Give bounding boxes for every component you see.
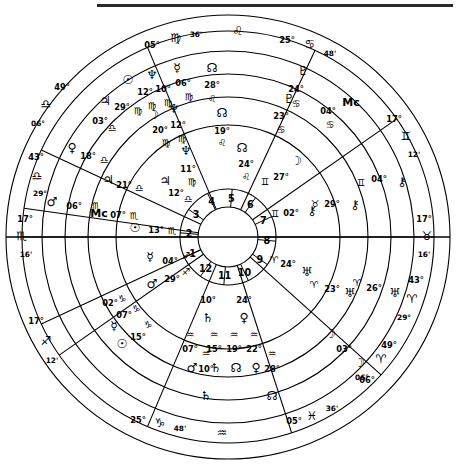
inner-ring-sign-libra-8: ♎ <box>184 193 193 204</box>
mid-ring-degree-venus-6: 22° <box>246 344 262 354</box>
outer-ring-planet-pluto-0: ♇ <box>297 63 308 78</box>
outer-degree-7: 05° <box>286 416 302 426</box>
house-cusp-lines <box>6 47 450 433</box>
mid-ring-degree-mars-9: 07° <box>182 344 198 354</box>
inner-ring-degree-venus-9: 24° <box>236 295 252 305</box>
outer-minute-4: 16' <box>418 250 431 259</box>
outer-sign-scorpio-11: ♏ <box>17 229 28 243</box>
outer-degree-4: 17° <box>416 214 432 224</box>
outer-ring-degree-mars-7: 06° <box>66 201 82 211</box>
mid-ring-planet-chiron-3: ⚷ <box>350 197 359 212</box>
inner-ring-degree-mercury-5: 04° <box>162 256 178 266</box>
house-number-6: 6 <box>247 199 254 210</box>
outer-ring-planet-uranus-3: ♅ <box>389 285 400 300</box>
outer-sign-cancer-2: ♋ <box>305 37 316 51</box>
outer-minute-10: 12' <box>46 356 59 365</box>
outer-ring-planet-chiron-2: ⚷ <box>397 174 406 189</box>
inner-ring-planet-uranus-4: ♅ <box>301 264 312 279</box>
outer-minute-9: 48' <box>174 424 187 433</box>
inner-ring-planet-jupiter-8: ♃ <box>159 173 170 188</box>
inner-ring-planet-venus-9: ♀ <box>239 310 248 325</box>
outer-degree-10: 17° <box>28 316 44 326</box>
inner-ring-degree-saturn-10: 10° <box>200 295 216 305</box>
inner-ring-degree-uranus-4: 24° <box>280 259 296 269</box>
outer-minute-11: 16' <box>20 250 33 259</box>
outer-degree-3: 17° <box>386 114 402 124</box>
mid-ring-planet-moon-5: ☽ <box>324 326 335 341</box>
outer-minute-3: 12' <box>408 150 421 159</box>
outer-sign-libra-13: ♎ <box>41 97 52 111</box>
mid-ring-sign-aries-4: ♈ <box>310 279 319 290</box>
mid-ring-planet-mercury-11: ☿ <box>110 318 118 333</box>
mid-ring-sign-aquarius-8: ♒ <box>210 329 219 340</box>
mid-ring-sign-aquarius-7: ♒ <box>230 329 239 340</box>
inner-ring-planet-neptune-1: ♆ <box>180 143 191 158</box>
mid-ring-sign-gemini-2: ♊ <box>261 176 270 187</box>
mid-ring-sign-capricorn-11: ♑ <box>132 303 141 314</box>
outer-ring-degree-mc-1: 04° <box>320 106 336 116</box>
outer-degree-11: 17° <box>17 214 33 224</box>
mid-ring-sign-libra-14: ♎ <box>135 182 144 193</box>
outer-ring-planet-jupiter-9: ♃ <box>99 93 110 108</box>
house-number-9: 9 <box>257 254 264 265</box>
outer-ring-degree-sun-10: 12° <box>137 87 153 97</box>
mid-ring-degree-uranus-4: 23° <box>324 284 340 294</box>
outer-ring-degree-uranus-3: 26° <box>366 283 382 293</box>
inner-ring-planet-node-2: ☊ <box>236 140 247 155</box>
mid-ring-degree-jupiter-14: 21° <box>116 180 132 190</box>
astrology-chart-wheel[interactable]: 123456789101112 05°♍36'♌25°♋48'17°♊12'17… <box>0 0 457 469</box>
mid-ring-planet-moon-2: ☽ <box>290 153 301 168</box>
house-number-8: 8 <box>264 235 271 246</box>
mid-ring-degree-node-7: 19° <box>226 344 242 354</box>
inner-ring-degree-node-0: 19° <box>214 126 230 136</box>
mid-ring-degree-saturn-8: 15° <box>206 344 222 354</box>
outer-degree-6: 49° <box>381 340 397 350</box>
inner-ring-sign-aries-4: ♈ <box>270 254 279 265</box>
outer-ring-degree-neptune-11: 10° <box>155 84 171 94</box>
mid-ring-planet-node-7: ☊ <box>230 360 241 375</box>
mid-ring-planet-saturn-8: ♄ <box>210 360 221 375</box>
inner-ring-degree-node-2: 24° <box>238 159 254 169</box>
inner-ring-sign-scorpio-7: ♏ <box>168 225 177 236</box>
mid-ring-degree-moon-16: 20° <box>152 125 168 135</box>
outer-ring-sign-cancer-1: ♋ <box>326 119 335 130</box>
mid-ring-degree-node-0: 28° <box>204 80 220 90</box>
mid-ring-planet-venus-6: ♀ <box>251 360 260 375</box>
outer-degree-12: 43° <box>28 152 44 162</box>
outer-ring-planet-mc-1: Mc <box>342 96 359 109</box>
inner-ring-degree-chiron-3: 02° <box>283 208 299 218</box>
inner-ring-sign-sagittarius-5: ♐ <box>182 250 191 261</box>
outer-degree-0: 05° <box>144 40 160 50</box>
house-number-4: 4 <box>208 196 215 207</box>
outer-ring-sign-libra-8: ♎ <box>100 154 109 165</box>
outer-ring-degree-mercury-12: 06° <box>175 78 191 88</box>
outer-ring-planet-venus-8: ♀ <box>67 140 76 155</box>
outer-ring-planet-sun-10: ☉ <box>122 72 133 87</box>
mid-ring-planet-node-0: ☊ <box>206 60 217 75</box>
chart-labels: 05°♍36'♌25°♋48'17°♊12'17°♉16'43°♈29°49°♈… <box>17 24 433 440</box>
mid-ring-sign-cancer-1: ♋ <box>277 124 286 135</box>
mid-ring-planet-pluto-1: ♇ <box>283 91 294 106</box>
outer-degree-13: 49° <box>54 82 70 92</box>
inner-ring-planet-mars-6: ♂ <box>146 276 157 291</box>
inner-ring-planet-saturn-10: ♄ <box>202 310 213 325</box>
mid-ring-planet-uranus-4: ♅ <box>344 285 355 300</box>
outer-ring-degree-chiron-2: 04° <box>371 174 387 184</box>
outer-ring-planet-neptune-11: ♆ <box>146 67 157 82</box>
house-number-5: 5 <box>228 193 235 204</box>
inner-ring-degree-mars-6: 29° <box>164 274 180 284</box>
mid-ring-sign-capricorn-12: ♑ <box>118 293 127 304</box>
outer-ring-planet-moon-4: ☽ <box>353 355 364 370</box>
mid-ring-planet-neptune-17: ♆ <box>168 101 179 116</box>
mid-ring-planet-moon-16: ☽ <box>147 107 158 122</box>
inner-ring-sign-leo-2: ♌ <box>242 171 251 182</box>
outer-ring-sign-gemini-2: ♊ <box>357 177 366 188</box>
outer-minute-5: 29° <box>397 313 411 322</box>
outer-ring-planet-saturn-6: ♄ <box>200 388 211 403</box>
inner-ring-degree-neptune-1: 11° <box>180 164 196 174</box>
inner-ring-planet-node-0: ☊ <box>216 105 227 120</box>
mid-ring-sign-capricorn-10: ♑ <box>144 319 153 330</box>
inner-ring-planet-mercury-5: ☿ <box>146 249 154 264</box>
mid-ring-planet-mc-13: Mc <box>90 207 107 220</box>
house-number-11: 11 <box>218 270 232 281</box>
